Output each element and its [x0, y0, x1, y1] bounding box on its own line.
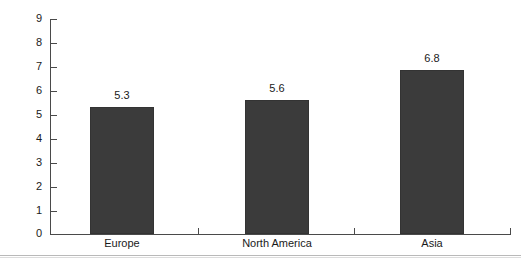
y-axis-tick-label-text: 6 [14, 85, 42, 96]
y-axis-tick-label-text: 3 [14, 157, 42, 168]
x-axis-tick [198, 228, 199, 234]
bar-chart: 9 8 7 6 5 4 3 2 1 [0, 0, 521, 264]
y-axis-tick [51, 187, 57, 188]
y-axis-tick [51, 139, 57, 140]
x-axis-category-label: North America [222, 237, 332, 250]
x-axis-category-label: Europe [82, 237, 162, 250]
y-axis-tick-label-text: 7 [14, 61, 42, 72]
y-axis-tick-label-text: 8 [14, 37, 42, 48]
y-axis-tick-label-text: 9 [14, 13, 42, 24]
y-axis-tick-label: 1 [14, 205, 42, 216]
plot-area: 9 8 7 6 5 4 3 2 1 [0, 0, 521, 264]
bar-value-label: 5.6 [245, 82, 309, 94]
y-axis-tick [51, 211, 57, 212]
y-axis-tick-label-text: 2 [14, 181, 42, 192]
y-axis-tick-label-text: 1 [14, 205, 42, 216]
bar-value-label: 5.3 [90, 89, 154, 101]
y-axis-tick-label: 6 [14, 85, 42, 96]
y-axis-tick [51, 19, 57, 20]
x-axis-line [50, 234, 511, 235]
y-axis-tick-label: 3 [14, 157, 42, 168]
y-axis-tick [51, 91, 57, 92]
y-axis-tick [51, 115, 57, 116]
y-axis-tick-label: 4 [14, 133, 42, 144]
bar-asia[interactable] [400, 70, 464, 234]
y-axis-tick-label-text: 0 [14, 228, 42, 239]
y-axis-tick-label: 0 [14, 228, 42, 239]
page-rule-line [0, 255, 521, 256]
y-axis-tick-label-text: 4 [14, 133, 42, 144]
x-axis-category-label: Asia [392, 237, 472, 250]
y-axis-tick-label: 2 [14, 181, 42, 192]
y-axis-line [50, 19, 51, 235]
y-axis-tick-label: 9 [14, 13, 42, 24]
x-axis-tick [510, 228, 511, 234]
y-axis-tick [51, 43, 57, 44]
bar-europe[interactable] [90, 107, 154, 234]
y-axis-tick-label: 5 [14, 109, 42, 120]
y-axis-tick [51, 163, 57, 164]
y-axis-tick-label: 8 [14, 37, 42, 48]
y-axis-tick [51, 67, 57, 68]
y-axis-tick-label: 7 [14, 61, 42, 72]
bar-north-america[interactable] [245, 100, 309, 234]
bar-value-label: 6.8 [400, 52, 464, 64]
y-axis-tick [51, 234, 57, 235]
x-axis-tick [354, 228, 355, 234]
page-rule-line-secondary [0, 257, 521, 258]
y-axis-tick-label-text: 5 [14, 109, 42, 120]
